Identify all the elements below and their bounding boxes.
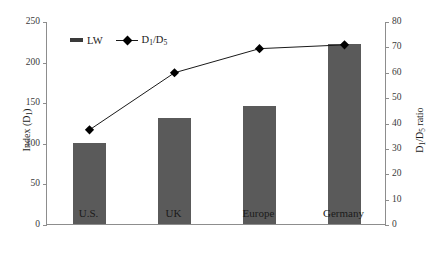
plot-area: 050100150200250 01020304050607080	[47, 22, 385, 224]
left-axis-title-sub: 1	[26, 112, 34, 116]
category-label-germany: Germany	[323, 207, 364, 219]
category-label-uk: UK	[166, 207, 182, 219]
left-axis-tick-label: 0	[35, 220, 40, 230]
right-axis-tick-label: 80	[392, 17, 402, 27]
line-series-d1d5	[47, 22, 387, 225]
left-axis-tick-label: 200	[26, 58, 40, 68]
diamond-marker-u-s	[85, 125, 94, 134]
right-axis-tick-label: 20	[392, 170, 402, 180]
right-axis-tick-label: 30	[392, 144, 402, 154]
line-path-d1d5	[90, 45, 345, 130]
right-axis-title-sub2: 5	[419, 128, 427, 132]
chart-figure: Index (D1) D1/D5 ratio LW D1/D5 05010015…	[0, 0, 429, 260]
left-axis-title-post: )	[21, 109, 32, 112]
left-axis-tick-label: 100	[26, 139, 40, 149]
right-axis-title-post: ratio	[414, 107, 425, 128]
plot-frame: 050100150200250 01020304050607080	[46, 22, 386, 225]
right-axis-tick-label: 50	[392, 93, 402, 103]
diamond-marker-germany	[340, 40, 349, 49]
right-axis-title-sub1: 1	[419, 142, 427, 146]
left-axis-tick-label: 150	[26, 98, 40, 108]
left-axis-tick	[43, 225, 47, 226]
diamond-marker-uk	[170, 68, 179, 77]
category-label-europe: Europe	[243, 207, 275, 219]
right-axis-tick-label: 40	[392, 119, 402, 129]
right-axis-title-pre: D	[414, 145, 425, 152]
right-axis-tick	[385, 225, 389, 226]
right-axis-tick-label: 60	[392, 68, 402, 78]
right-axis-tick-label: 0	[392, 220, 397, 230]
left-axis-tick-label: 250	[26, 17, 40, 27]
category-label-u-s: U.S.	[79, 207, 99, 219]
right-axis-tick-label: 70	[392, 43, 402, 53]
right-axis-tick-label: 10	[392, 195, 402, 205]
left-axis-tick-label: 50	[31, 180, 41, 190]
right-axis-title: D1/D5 ratio	[414, 107, 427, 152]
right-axis-title-mid: /D	[414, 132, 425, 142]
diamond-marker-europe	[255, 44, 264, 53]
chart-title	[0, 0, 429, 2]
